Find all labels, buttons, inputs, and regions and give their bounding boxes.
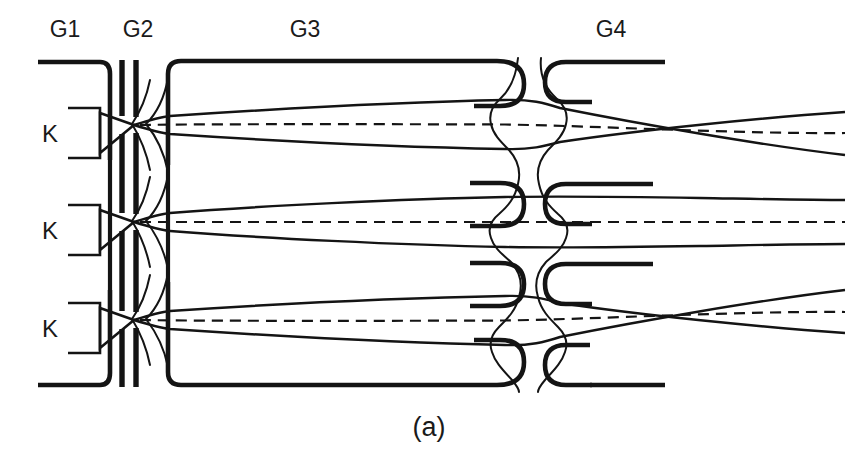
beam-center-upper-edge (134, 197, 845, 222)
g4-bottom-hook (545, 345, 592, 385)
beam-center (134, 197, 845, 248)
cathode-emitter-top (100, 113, 134, 153)
label-g1: G1 (50, 16, 81, 42)
label-cathode-top: K (42, 120, 58, 147)
figure-caption: (a) (413, 412, 446, 442)
label-g2: G2 (123, 16, 154, 42)
figure-canvas: G1 G2 G3 G4 K K K (a) (0, 0, 858, 456)
label-g3: G3 (290, 16, 321, 42)
label-cathode-bottom: K (42, 315, 58, 342)
label-g4: G4 (596, 16, 627, 42)
cathode-bracket-top (68, 108, 100, 158)
cathode-bracket-center (68, 205, 100, 255)
cathode-emitter-bottom (100, 308, 134, 348)
beam-bottom-axis (140, 312, 845, 321)
beam-bottom-upper-edge (134, 296, 845, 333)
cathode-bracket-bottom (68, 303, 100, 353)
beam-bottom-lower-edge (134, 290, 845, 345)
label-cathode-center: K (42, 217, 58, 244)
cathode-emitter-center (100, 210, 134, 250)
crt-electron-gun-diagram: G1 G2 G3 G4 K K K (a) (0, 0, 858, 456)
g4-top-hook (545, 62, 592, 102)
g4-upper-mid-hook (545, 184, 592, 224)
beam-bottom (134, 290, 845, 345)
g4-lower-mid-hook (545, 264, 592, 304)
